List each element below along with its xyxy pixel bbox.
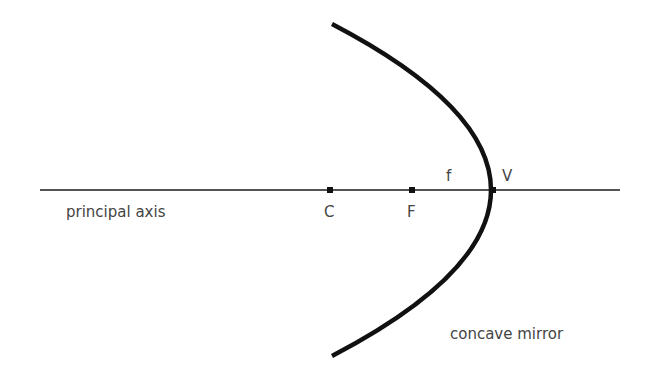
label-f: F — [407, 203, 416, 221]
label-focal-length: f — [446, 167, 452, 185]
label-v: V — [502, 167, 513, 185]
label-principal-axis: principal axis — [66, 203, 166, 221]
mirror-diagram: C F V f principal axis concave mirror — [0, 0, 647, 384]
vertex-marker — [490, 187, 496, 193]
focal-point-marker — [409, 187, 415, 193]
label-concave-mirror: concave mirror — [450, 325, 564, 343]
label-c: C — [324, 203, 334, 221]
center-of-curvature-marker — [327, 187, 333, 193]
